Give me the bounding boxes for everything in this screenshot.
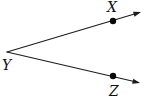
angle-diagram-svg: X Y Z (0, 0, 150, 102)
angle-diagram: X Y Z (0, 0, 150, 102)
ray-y-to-x (7, 13, 140, 53)
ray-y-to-z (7, 52, 139, 83)
label-y: Y (2, 57, 13, 73)
point-x-dot (110, 18, 116, 24)
point-z-dot (110, 73, 116, 79)
ray-yx-arrowhead-icon (133, 10, 142, 17)
ray-yz-arrowhead-icon (132, 79, 140, 86)
label-z: Z (108, 83, 119, 99)
label-x: X (106, 0, 118, 15)
